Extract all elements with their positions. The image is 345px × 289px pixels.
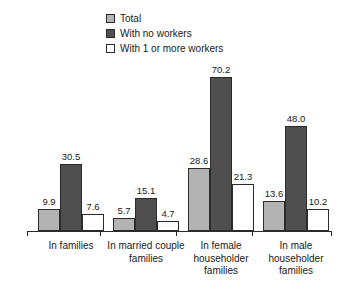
bar: [157, 221, 179, 231]
bar: [82, 214, 104, 231]
x-axis-tick: [27, 231, 28, 236]
bar-value-label: 48.0: [280, 114, 312, 124]
bar-value-label: 7.6: [77, 202, 109, 212]
x-axis-tick: [252, 231, 253, 236]
bar-value-label: 70.2: [205, 65, 237, 75]
bar: [307, 209, 329, 231]
bar-chart: Total With no workers With 1 or more wor…: [0, 0, 345, 289]
bar: [188, 168, 210, 231]
bar: [38, 209, 60, 231]
bar-value-label: 15.1: [130, 186, 162, 196]
bar: [60, 164, 82, 231]
bar: [285, 126, 307, 231]
x-axis-category-label-line: families: [251, 265, 341, 278]
bar-value-label: 4.7: [152, 209, 184, 219]
bar-value-label: 30.5: [55, 152, 87, 162]
x-axis-tick: [100, 231, 101, 236]
bar-value-label: 21.3: [227, 172, 259, 182]
x-axis-tick: [331, 231, 332, 236]
x-axis-tick: [176, 231, 177, 236]
bar: [113, 218, 135, 231]
x-axis-category-label-line: In male: [251, 240, 341, 253]
x-axis-category-label-line: householder: [251, 253, 341, 266]
bar: [210, 77, 232, 231]
bar: [263, 201, 285, 231]
x-axis-line: [27, 231, 332, 232]
x-axis-category-label: In malehouseholderfamilies: [251, 240, 341, 278]
bar-value-label: 10.2: [302, 197, 334, 207]
bar: [232, 184, 254, 231]
